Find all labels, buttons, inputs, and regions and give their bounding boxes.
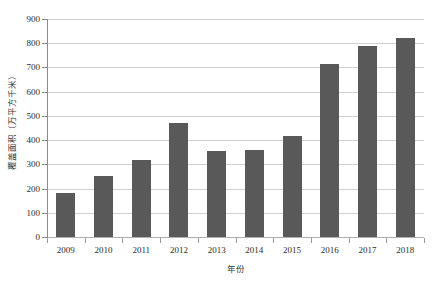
x-axis-tick [160,238,161,243]
x-axis-tick [85,238,86,243]
x-axis-tick [47,238,48,243]
bar [169,123,188,237]
x-axis-tick-label: 2017 [358,245,376,255]
bar [283,136,302,237]
x-axis-tick-label: 2010 [95,245,113,255]
x-axis-tick-label: 2011 [132,245,150,255]
y-axis-tick-label: 400 [6,135,40,145]
y-axis-tick-label: 800 [6,38,40,48]
y-axis-tick [42,116,47,117]
y-axis-tick [42,43,47,44]
x-axis-tick [198,238,199,243]
y-axis-tick [42,213,47,214]
y-axis-tick-label: 200 [6,184,40,194]
x-axis-tick [349,238,350,243]
x-axis-tick-label: 2012 [170,245,188,255]
bar [396,38,415,237]
y-axis-tick-labels: 0100200300400500600700800900 [0,0,40,284]
x-axis-tick-labels: 2009201020112012201320142015201620172018 [47,245,424,259]
bar [132,160,151,238]
y-axis-tick-label: 600 [6,87,40,97]
x-axis-tick [386,238,387,243]
bar [358,46,377,237]
y-axis-tick-label: 0 [6,232,40,242]
y-axis-tick [42,67,47,68]
bar [245,150,264,237]
bar [56,193,75,237]
y-axis-tick [42,140,47,141]
x-axis-tick [236,238,237,243]
y-axis-tick [42,19,47,20]
x-axis-tick [122,238,123,243]
x-axis-tick-label: 2009 [57,245,75,255]
bar [207,151,226,237]
x-axis-tick-label: 2018 [396,245,414,255]
x-axis-tick-label: 2015 [283,245,301,255]
y-axis-tick [42,92,47,93]
y-axis-tick [42,189,47,190]
x-axis-tick-label: 2016 [321,245,339,255]
x-axis-tick [424,238,425,243]
y-axis-tick [42,164,47,165]
bar [94,176,113,237]
y-axis-tick-label: 500 [6,111,40,121]
bars-layer [47,19,424,237]
y-axis-tick-label: 700 [6,62,40,72]
y-axis-tick-label: 100 [6,208,40,218]
x-axis-title: 年份 [47,262,424,274]
x-axis-tick-label: 2014 [245,245,263,255]
x-axis-tick [311,238,312,243]
x-axis-tick-label: 2013 [208,245,226,255]
y-axis-tick-label: 300 [6,159,40,169]
bar-chart: 覆盖面积（万平方千米） 0100200300400500600700800900… [0,0,436,284]
x-axis-ticks [47,238,424,244]
bar [320,64,339,237]
y-axis-tick-label: 900 [6,14,40,24]
y-axis-tick [42,237,47,238]
x-axis-tick [273,238,274,243]
